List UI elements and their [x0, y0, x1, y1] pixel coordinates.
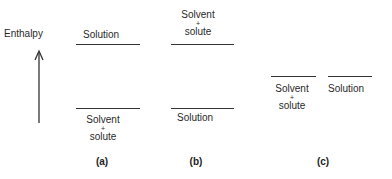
- panel-b-lower-level: [171, 108, 234, 109]
- panel-c-caption: (c): [317, 156, 329, 167]
- panel-c-right-label: Solution: [328, 84, 364, 94]
- panel-b-lower-label: Solution: [177, 113, 213, 123]
- panel-a-lower-level: [76, 108, 140, 109]
- panel-b-caption: (b): [190, 156, 203, 167]
- panel-a-upper-level: [76, 44, 140, 45]
- panel-a-upper-label: Solution: [83, 30, 119, 40]
- panel-a-caption: (a): [96, 156, 108, 167]
- panel-c-right-level: [328, 76, 372, 77]
- panel-a-lower-label: Solvent + solute: [86, 115, 119, 142]
- panel-b-upper-level: [171, 44, 234, 45]
- panel-c-left-level: [271, 76, 316, 77]
- panel-c-left-label: Solvent + solute: [275, 84, 308, 111]
- panel-b-upper-label: Solvent + solute: [181, 10, 214, 37]
